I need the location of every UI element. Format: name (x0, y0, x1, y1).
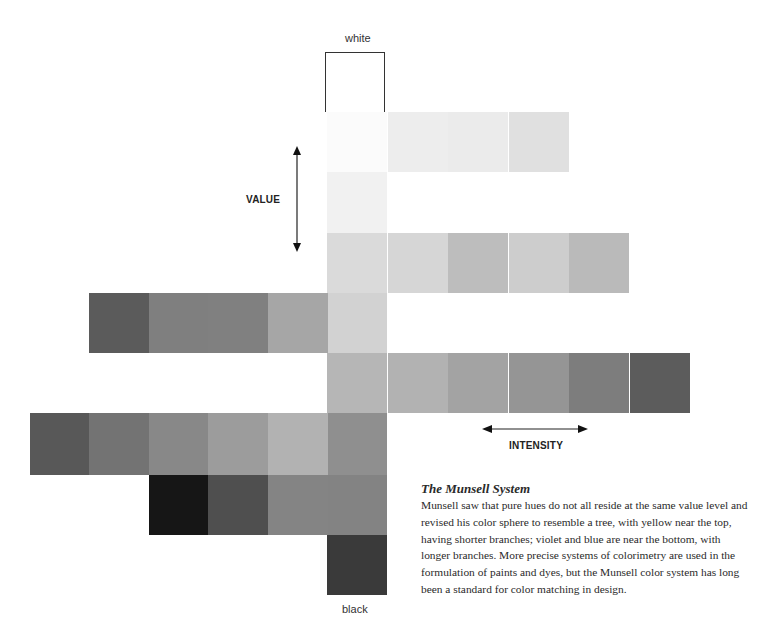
caption: The Munsell System Munsell saw that pure… (421, 481, 751, 598)
value-axis-label: VALUE (246, 194, 280, 205)
intensity-axis-label: INTENSITY (509, 440, 563, 451)
white-bracket (325, 52, 385, 112)
value-swatch-center (327, 475, 387, 535)
intensity-swatch-left (208, 475, 268, 535)
value-swatch-center (327, 413, 387, 475)
intensity-swatch-right (448, 233, 508, 293)
caption-body: Munsell saw that pure hues do not all re… (421, 497, 751, 598)
intensity-arrow-icon (482, 422, 588, 436)
intensity-swatch-left (89, 413, 149, 475)
intensity-swatch-left (30, 413, 90, 475)
caption-title: The Munsell System (421, 481, 751, 497)
intensity-swatch-right (509, 353, 569, 413)
value-swatch-center (327, 112, 387, 172)
intensity-swatch-left (268, 293, 328, 353)
intensity-swatch-right (448, 112, 508, 172)
value-arrow-icon (290, 146, 304, 252)
intensity-swatch-right (388, 112, 448, 172)
intensity-swatch-left (268, 413, 328, 475)
intensity-swatch-right (630, 353, 690, 413)
intensity-swatch-right (569, 353, 629, 413)
value-swatch-center (327, 172, 387, 233)
intensity-swatch-right (509, 233, 569, 293)
intensity-swatch-left (149, 413, 209, 475)
intensity-swatch-left (208, 293, 268, 353)
intensity-swatch-left (268, 475, 328, 535)
intensity-swatch-left (149, 475, 209, 535)
value-swatch-center (327, 535, 387, 595)
intensity-swatch-right (569, 233, 629, 293)
black-label: black (342, 603, 368, 615)
value-swatch-center (327, 353, 387, 413)
intensity-swatch-left (89, 293, 149, 353)
white-label: white (345, 32, 371, 44)
intensity-swatch-right (388, 353, 448, 413)
value-swatch-center (327, 293, 387, 353)
intensity-swatch-right (509, 112, 569, 172)
intensity-swatch-left (208, 413, 268, 475)
intensity-swatch-left (149, 293, 209, 353)
value-swatch-center (327, 233, 387, 293)
intensity-swatch-right (388, 233, 448, 293)
intensity-swatch-right (448, 353, 508, 413)
